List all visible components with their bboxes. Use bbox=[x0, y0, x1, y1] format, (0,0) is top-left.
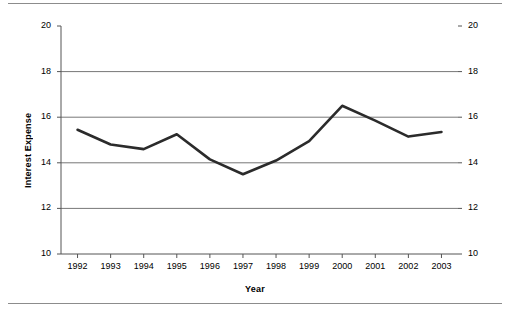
data-series-line bbox=[78, 106, 442, 174]
y-axis-right-tick-label: 20 bbox=[468, 20, 490, 30]
x-axis-ticks bbox=[78, 254, 442, 258]
axes-group bbox=[61, 26, 458, 254]
y-axis-right-tick-label: 14 bbox=[468, 157, 490, 167]
y-axis-right-tick-label: 12 bbox=[468, 202, 490, 212]
x-axis-title: Year bbox=[0, 284, 510, 294]
x-axis-tick-label: 2003 bbox=[421, 261, 461, 271]
chart-figure: Interest Expense Year 101214161820 10121… bbox=[0, 0, 510, 313]
y-axis-tick-label: 20 bbox=[29, 20, 51, 30]
y-axis-tick-label: 14 bbox=[29, 157, 51, 167]
y-axis-tick-label: 16 bbox=[29, 111, 51, 121]
y-axis-right-tick-label: 10 bbox=[468, 248, 490, 258]
y-axis-left-ticks bbox=[57, 26, 61, 254]
y-axis-right-tick-label: 18 bbox=[468, 66, 490, 76]
y-axis-right-tick-label: 16 bbox=[468, 111, 490, 121]
y-axis-tick-label: 18 bbox=[29, 66, 51, 76]
y-axis-tick-label: 12 bbox=[29, 202, 51, 212]
y-axis-right-ticks bbox=[458, 26, 462, 254]
gridlines-group bbox=[61, 72, 458, 209]
y-axis-tick-label: 10 bbox=[29, 248, 51, 258]
